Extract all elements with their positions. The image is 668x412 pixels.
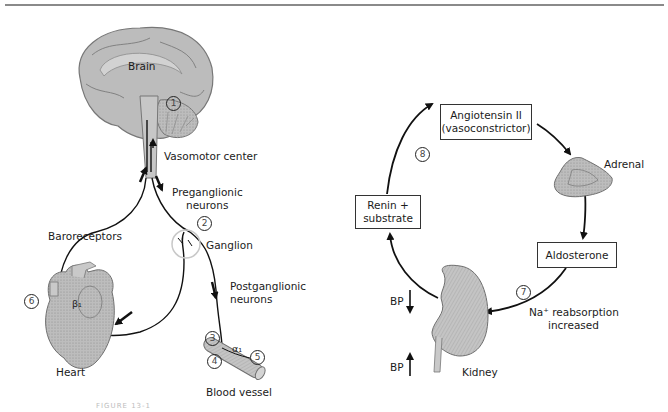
label-ganglion: Ganglion [206, 239, 253, 251]
label-kidney: Kidney [462, 366, 498, 378]
label-brain: Brain [128, 60, 156, 72]
marker-8: 8 [415, 147, 430, 162]
box-aldosterone: Aldosterone [537, 242, 617, 268]
label-baroreceptors: Baroreceptors [48, 230, 122, 242]
label-preganglionic-neurons: neurons [186, 199, 228, 211]
label-adrenal: Adrenal [604, 158, 644, 170]
angiotensin-line2: (vasoconstrictor) [441, 122, 530, 135]
figure-caption: FIGURE 13-1 [96, 402, 151, 410]
label-postganglionic-neurons: neurons [230, 293, 272, 305]
label-preganglionic: Preganglionic [172, 186, 243, 198]
renin-line2: substrate [363, 212, 413, 225]
label-increased: increased [548, 319, 599, 331]
marker-6: 6 [24, 294, 39, 309]
angiotensin-line1: Angiotensin II [450, 109, 522, 122]
renin-line1: Renin + [367, 199, 409, 212]
marker-4: 4 [207, 354, 222, 369]
label-heart: Heart [56, 366, 85, 378]
marker-2: 2 [197, 216, 212, 231]
label-beta1: β₁ [72, 298, 82, 310]
kidney-illustration [432, 265, 488, 372]
marker-7: 7 [516, 285, 531, 300]
heart-illustration [46, 262, 115, 368]
label-bp-up: BP [390, 361, 404, 373]
marker-3: 3 [205, 331, 220, 346]
arc-angiotensin-to-adrenal [537, 124, 570, 154]
box-angiotensin-ii: Angiotensin II (vasoconstrictor) [440, 104, 532, 140]
label-alpha1: α₁ [232, 343, 242, 355]
figure-canvas: Brain Vasomotor center Preganglionic neu… [0, 0, 668, 412]
box-renin-substrate: Renin + substrate [355, 195, 421, 229]
arc-kidney-to-renin [390, 234, 438, 298]
marker-5: 5 [250, 350, 265, 365]
label-postganglionic: Postganglionic [230, 280, 306, 292]
diagram-graphics [0, 0, 668, 412]
arc-adrenal-to-aldosterone [583, 194, 585, 238]
label-bp-down: BP [390, 295, 404, 307]
label-blood-vessel: Blood vessel [206, 386, 272, 398]
marker-1: 1 [166, 96, 181, 111]
label-na-reabsorption: Na⁺ reabsorption [529, 306, 619, 318]
label-vasomotor-center: Vasomotor center [164, 150, 257, 162]
aldosterone-text: Aldosterone [546, 249, 609, 262]
ganglion-circle [172, 230, 200, 258]
